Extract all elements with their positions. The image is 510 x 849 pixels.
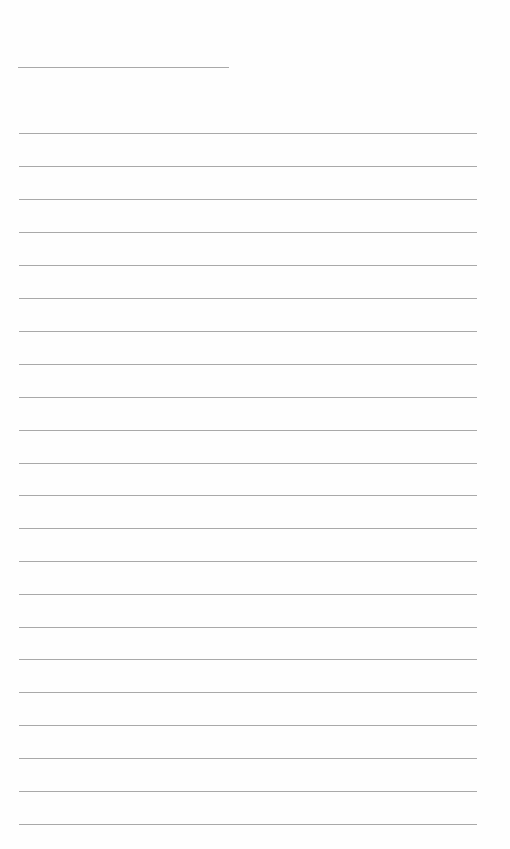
ruled-line bbox=[19, 824, 477, 825]
ruled-line bbox=[19, 561, 477, 562]
ruled-line bbox=[19, 199, 477, 200]
ruled-line bbox=[19, 594, 477, 595]
header-line bbox=[18, 67, 229, 68]
ruled-line bbox=[19, 791, 477, 792]
ruled-line bbox=[19, 463, 477, 464]
ruled-line bbox=[19, 133, 477, 134]
ruled-line bbox=[19, 397, 477, 398]
ruled-line bbox=[19, 725, 477, 726]
ruled-line bbox=[19, 331, 477, 332]
ruled-line bbox=[19, 627, 477, 628]
ruled-line bbox=[19, 298, 477, 299]
ruled-line bbox=[19, 659, 477, 660]
ruled-line bbox=[19, 495, 477, 496]
ruled-line bbox=[19, 364, 477, 365]
ruled-line bbox=[19, 265, 477, 266]
lined-paper-page bbox=[0, 0, 510, 849]
ruled-line bbox=[19, 166, 477, 167]
ruled-line bbox=[19, 758, 477, 759]
ruled-line bbox=[19, 430, 477, 431]
ruled-line bbox=[19, 232, 477, 233]
ruled-line bbox=[19, 528, 477, 529]
ruled-line bbox=[19, 692, 477, 693]
